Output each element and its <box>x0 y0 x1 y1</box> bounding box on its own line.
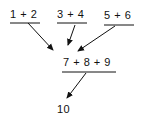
arrow-5-plus-6 <box>78 26 115 51</box>
result-10: 10 <box>57 104 70 115</box>
expression-7-plus-8-plus-9: 7 + 8 + 9 <box>63 57 111 68</box>
expression-3-plus-4: 3 + 4 <box>57 9 84 20</box>
arrow-1-plus-2 <box>28 23 53 50</box>
expression-5-plus-6: 5 + 6 <box>104 10 131 21</box>
arrow-3-plus-4 <box>68 25 75 45</box>
expression-1-plus-2: 1 + 2 <box>10 9 37 20</box>
arrow-7-plus-8-plus-9 <box>67 73 86 98</box>
